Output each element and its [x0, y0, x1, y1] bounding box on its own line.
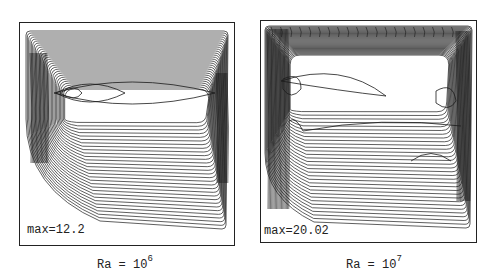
- streamline-contours: [261, 21, 476, 242]
- streamline-plot-ra-1e6: max=12.2: [19, 22, 235, 246]
- streamline-contours: [20, 23, 234, 245]
- caption-exponent: 7: [396, 254, 401, 264]
- max-label: max=12.2: [27, 223, 85, 237]
- caption-base: Ra = 10: [346, 258, 396, 272]
- caption-ra-1e6: Ra = 106: [97, 258, 153, 272]
- caption-exponent: 6: [147, 254, 152, 264]
- caption-base: Ra = 10: [97, 258, 147, 272]
- streamline-plot-ra-1e7: max=20.02: [260, 20, 477, 243]
- caption-ra-1e7: Ra = 107: [346, 258, 402, 272]
- max-label: max=20.02: [264, 224, 329, 238]
